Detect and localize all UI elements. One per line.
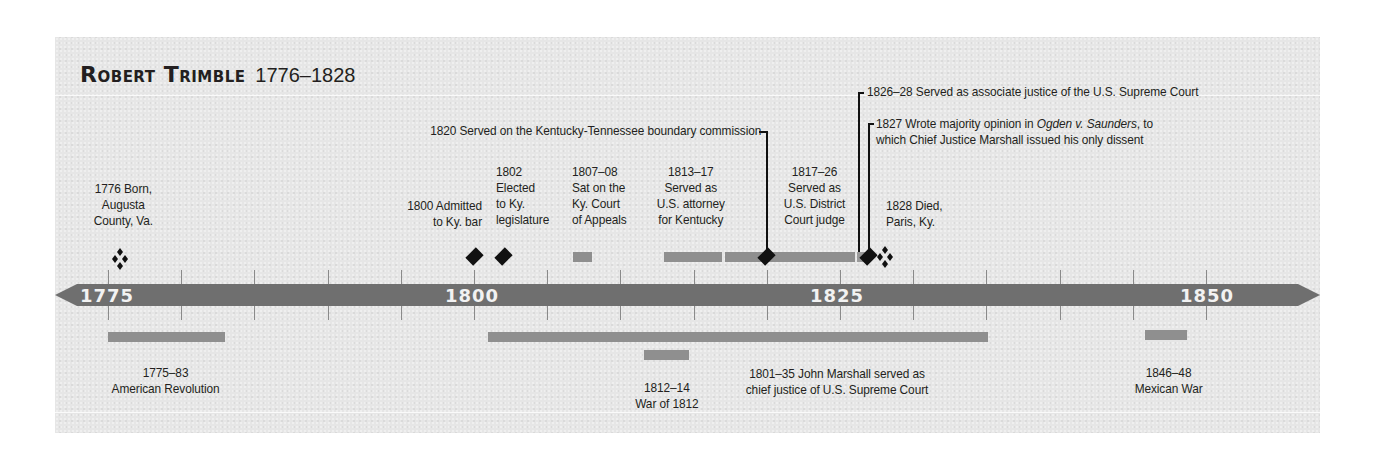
bar-admission-label: 1800 Admitted to Ky. bar: [407, 198, 482, 230]
legislature-line-4: legislature: [496, 212, 549, 228]
supreme-text: 1826–28 Served as associate justice of t…: [867, 84, 1198, 100]
boundary-leader-line: [766, 131, 768, 251]
mexican-war-bar: [1145, 330, 1187, 340]
ogden-label: 1827 Wrote majority opinion in Ogden v. …: [876, 116, 1153, 148]
born-line-1: 1776 Born,: [82, 181, 165, 197]
legislature-line-1: 1802: [496, 164, 549, 180]
died-label: 1828 Died, Paris, Ky.: [886, 198, 943, 230]
legislature-label: 1802 Elected to Ky. legislature: [496, 164, 549, 228]
boundary-text: 1820 Served on the Kentucky-Tennessee bo…: [430, 123, 761, 139]
ogden-leader-tick: [868, 123, 874, 125]
appeals-line-3: Ky. Court: [572, 196, 627, 212]
bar-admission-line-2: to Ky. bar: [407, 214, 482, 230]
war1812-line-1: 1812–14: [629, 380, 705, 396]
district-label: 1817–26 Served as U.S. District Court ju…: [774, 164, 855, 228]
legislature-line-2: Elected: [496, 180, 549, 196]
marshall-label: 1801–35 John Marshall served as chief ju…: [727, 366, 947, 398]
mexican-war-label: 1846–48 Mexican War: [1129, 365, 1208, 397]
title-dates: 1776–1828: [255, 64, 355, 86]
boundary-label: 1820 Served on the Kentucky-Tennessee bo…: [430, 123, 761, 139]
revolution-line-1: 1775–83: [104, 365, 227, 381]
district-line-1: 1817–26: [774, 164, 855, 180]
appeals-line-1: 1807–08: [572, 164, 627, 180]
district-line-3: U.S. District: [774, 196, 855, 212]
timeline-axis-bar: [55, 284, 1320, 306]
appeals-label: 1807–08 Sat on the Ky. Court of Appeals: [572, 164, 627, 228]
appeals-court-bar: [573, 252, 592, 262]
marshall-line-2: chief justice of U.S. Supreme Court: [727, 382, 947, 398]
attorney-line-1: 1813–17: [645, 164, 737, 180]
divider-bottom: [55, 412, 1320, 413]
district-line-4: Court judge: [774, 212, 855, 228]
marshall-line-1: 1801–35 John Marshall served as: [727, 366, 947, 382]
ogden-case-name: Ogden v. Saunders: [1037, 116, 1137, 131]
died-line-1: 1828 Died,: [886, 198, 943, 214]
died-quad-diamond-icon: [876, 246, 894, 268]
district-line-2: Served as: [774, 180, 855, 196]
attorney-line-3: U.S. attorney: [645, 196, 737, 212]
war1812-bar: [644, 350, 689, 360]
died-line-2: Paris, Ky.: [886, 214, 943, 230]
attorney-label: 1813–17 Served as U.S. attorney for Kent…: [645, 164, 737, 228]
appeals-line-2: Sat on the: [572, 180, 627, 196]
legislature-line-3: to Ky.: [496, 196, 549, 212]
revolution-bar: [108, 332, 225, 342]
axis-label-1850: 1850: [1180, 284, 1234, 306]
supreme-leader-line: [858, 92, 860, 252]
ogden-leader-line: [868, 123, 870, 251]
district-judge-bar: [725, 252, 855, 262]
axis-label-1825: 1825: [810, 284, 864, 306]
born-line-2: Augusta: [82, 197, 165, 213]
bar-admission-line-1: 1800 Admitted: [407, 198, 482, 214]
mexican-war-line-1: 1846–48: [1129, 365, 1208, 381]
title-name: Robert Trimble: [80, 62, 245, 87]
ogden-line-1: 1827 Wrote majority opinion in Ogden v. …: [876, 116, 1153, 132]
axis-label-1800: 1800: [445, 284, 499, 306]
attorney-line-2: Served as: [645, 180, 737, 196]
revolution-label: 1775–83 American Revolution: [104, 365, 227, 397]
attorney-line-4: for Kentucky: [645, 212, 737, 228]
war1812-line-2: War of 1812: [629, 396, 705, 412]
supreme-label: 1826–28 Served as associate justice of t…: [867, 84, 1198, 100]
ogden-suffix: , to: [1137, 116, 1153, 131]
attorney-bar: [664, 252, 722, 262]
ogden-prefix: 1827 Wrote majority opinion in: [876, 116, 1037, 131]
born-quad-diamond-icon: [111, 248, 129, 270]
appeals-line-4: of Appeals: [572, 212, 627, 228]
born-line-3: County, Va.: [82, 213, 165, 229]
axis-label-1775: 1775: [80, 284, 134, 306]
marshall-bar: [488, 332, 988, 342]
born-label: 1776 Born, Augusta County, Va.: [82, 181, 165, 229]
ogden-line-2: which Chief Justice Marshall issued his …: [876, 132, 1153, 148]
war1812-label: 1812–14 War of 1812: [629, 380, 705, 412]
mexican-war-line-2: Mexican War: [1129, 381, 1208, 397]
supreme-leader-tick: [858, 92, 864, 94]
page-title: Robert Trimble 1776–1828: [80, 62, 355, 87]
revolution-line-2: American Revolution: [104, 381, 227, 397]
